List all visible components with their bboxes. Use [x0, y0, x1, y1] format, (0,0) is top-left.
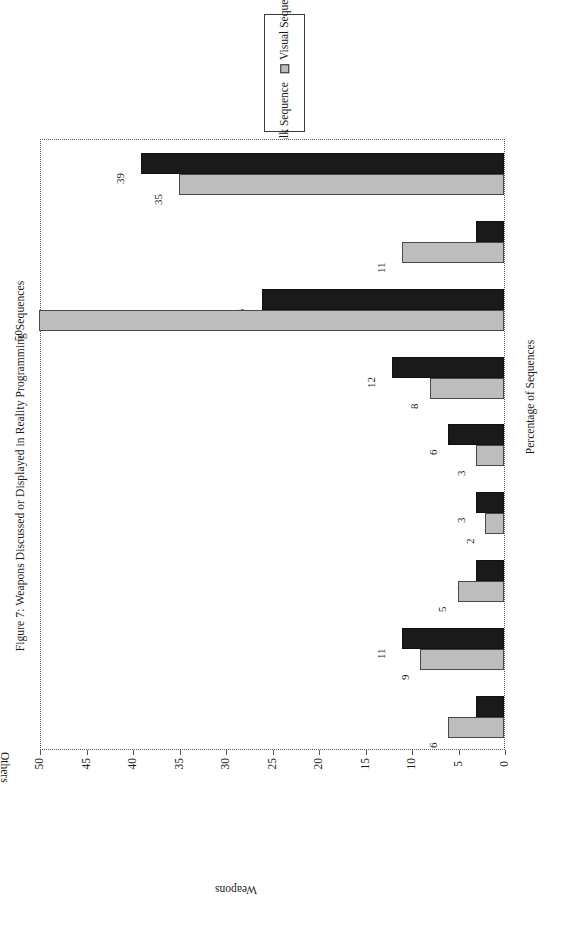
bar-wrapper: 6 [39, 424, 504, 445]
category-group: 35 [41, 547, 504, 615]
category-group: 3935 [41, 140, 504, 208]
bar-value-label: 5 [437, 607, 448, 613]
bar-visual-sequence[interactable] [448, 717, 504, 738]
bar-visual-sequence[interactable] [402, 242, 504, 263]
bar-wrapper: 2 [39, 513, 504, 534]
bar-wrapper: 35 [39, 174, 504, 195]
bar-visual-sequence[interactable] [179, 174, 505, 195]
bar-wrapper: 12 [39, 357, 504, 378]
bar-value-label: 9 [400, 675, 411, 681]
bar-value-label: 6 [428, 743, 439, 749]
bar-wrapper: 11 [39, 628, 504, 649]
category-label: Others [0, 752, 10, 783]
bar-wrapper: 6 [39, 717, 504, 738]
bar-visual-sequence[interactable] [420, 649, 504, 670]
bar-talk-sequence[interactable] [392, 357, 504, 378]
bar-wrapper: 3 [39, 445, 504, 466]
bar-wrapper: 39 [39, 153, 504, 174]
bar-wrapper: 3 [39, 696, 504, 717]
bar-value-label: 2 [465, 539, 476, 545]
value-axis-title: Percentage of Sequences [455, 385, 587, 409]
bar-wrapper: 3 [39, 221, 504, 242]
category-group: 311 [41, 208, 504, 276]
category-axis-title-text: Weapons [215, 884, 257, 896]
visual-sequence-swatch-icon [280, 64, 289, 73]
plot-area: 3935311265012863323511936 [40, 139, 505, 750]
bar-talk-sequence[interactable] [476, 560, 504, 581]
bar-talk-sequence[interactable] [141, 153, 504, 174]
bar-value-label: 50 [13, 330, 24, 341]
bar-talk-sequence[interactable] [448, 424, 504, 445]
bar-visual-sequence[interactable] [485, 513, 504, 534]
category-axis-title: Weapons [196, 880, 276, 900]
category-group: 32 [41, 479, 504, 547]
legend-entries: Talk Sequence Visual Sequence [279, 0, 291, 162]
value-axis-title-text: Percentage of Sequences [524, 340, 536, 454]
bar-value-label: 11 [376, 262, 387, 273]
bar-talk-sequence[interactable] [476, 492, 504, 513]
bar-visual-sequence[interactable] [39, 310, 504, 331]
bar-wrapper: 11 [39, 242, 504, 263]
category-group: 36 [41, 683, 504, 751]
bar-talk-sequence[interactable] [476, 221, 504, 242]
bar-wrapper: 3 [39, 560, 504, 581]
chart-legend: Talk Sequence Visual Sequence [264, 14, 305, 132]
category-group: 119 [41, 615, 504, 683]
category-group: 2650 [41, 276, 504, 344]
bar-talk-sequence[interactable] [476, 696, 504, 717]
legend-label-visual-sequence: Visual Sequence [279, 0, 291, 60]
bar-wrapper: 26 [39, 289, 504, 310]
bar-talk-sequence[interactable] [262, 289, 504, 310]
bar-value-label: 8 [409, 403, 420, 409]
category-axis-labels: Natural MeansWar WeaponsGunsKnivesRope, … [0, 752, 587, 931]
bar-value-label: 3 [456, 471, 467, 477]
bar-wrapper: 8 [39, 378, 504, 399]
category-group: 63 [41, 412, 504, 480]
bar-value-label: 35 [153, 194, 164, 205]
category-group: 128 [41, 344, 504, 412]
bar-visual-sequence[interactable] [458, 581, 505, 602]
bar-talk-sequence[interactable] [402, 628, 504, 649]
bar-wrapper: 5 [39, 581, 504, 602]
bar-wrapper: 50 [39, 310, 504, 331]
bar-wrapper: 3 [39, 492, 504, 513]
bar-wrapper: 9 [39, 649, 504, 670]
legend-item-visual-sequence: Visual Sequence [279, 0, 291, 73]
bar-visual-sequence[interactable] [476, 445, 504, 466]
